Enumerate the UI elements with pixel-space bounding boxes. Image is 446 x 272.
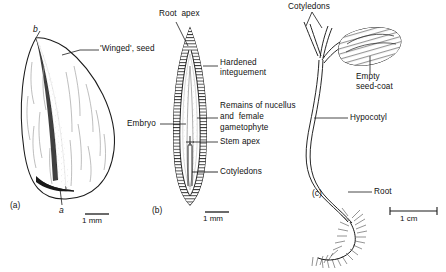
remains-nucellus-label-line2: and female <box>220 112 264 122</box>
panel-b-scale-label: 1 mm <box>203 214 223 223</box>
seed-apex-marker-b: b <box>33 24 38 34</box>
hardened-integument-label-line2: integuement <box>220 68 266 78</box>
panel-c-scale-label: 1 cm <box>400 214 417 223</box>
hypocotyl-label: Hypocotyl <box>350 113 387 123</box>
root-label: Root <box>374 187 392 197</box>
panel-c-artwork <box>304 12 437 268</box>
empty-seed-coat-label-line1: Empty <box>356 72 380 82</box>
embryo-label: Embryo <box>127 119 156 129</box>
remains-nucellus-label-line3: gametophyte <box>220 123 268 133</box>
panel-a-scale-label: 1 mm <box>82 216 102 225</box>
winged-seed-label: 'Winged', seed <box>100 44 155 54</box>
figure-seed-embryo-seedling: b 'Winged', seed a (a) 1 mm Root apex Ha… <box>0 0 446 272</box>
panel-a-artwork <box>21 31 114 214</box>
panel-c-id: (c) <box>312 188 322 198</box>
root-apex-label: Root apex <box>159 9 200 19</box>
panel-b-id: (b) <box>152 205 162 215</box>
empty-seed-coat-label-line2: seed-coat <box>356 82 393 92</box>
remains-nucellus-label-line1: Remains of nucellus <box>220 101 296 111</box>
cotyledons-label-panel-b: Cotyledons <box>220 167 262 177</box>
panel-a-id: (a) <box>10 200 20 210</box>
figure-artwork <box>0 0 446 272</box>
stem-apex-label: Stem apex <box>220 137 260 147</box>
seed-base-marker-a: a <box>59 205 64 215</box>
cotyledons-label-panel-c: Cotyledons <box>288 2 330 12</box>
hardened-integument-label-line1: Hardened <box>220 58 257 68</box>
panel-b-artwork <box>160 22 229 212</box>
